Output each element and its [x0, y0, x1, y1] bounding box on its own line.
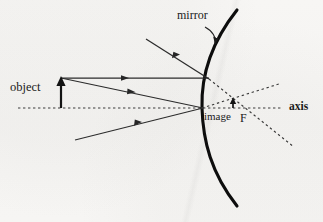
- label-focal-point: F: [240, 112, 247, 124]
- mirror-pointer-icon: [205, 27, 215, 44]
- incident-ray-parallel-arrowhead: [121, 75, 129, 81]
- label-object: object: [10, 81, 41, 94]
- reflected-ray-upper: [146, 39, 209, 79]
- label-image: image: [204, 111, 231, 122]
- image-arrow-head: [230, 98, 236, 105]
- reflected-ray-upper-arrowhead: [172, 52, 180, 58]
- reflected-ray-lower: [75, 108, 203, 140]
- label-axis: axis: [289, 101, 308, 113]
- label-mirror: mirror: [177, 9, 208, 21]
- diagram-canvas: [0, 0, 323, 222]
- virtual-ray-upper: [202, 84, 279, 108]
- optics-ray-diagram: object mirror image F axis: [0, 0, 323, 222]
